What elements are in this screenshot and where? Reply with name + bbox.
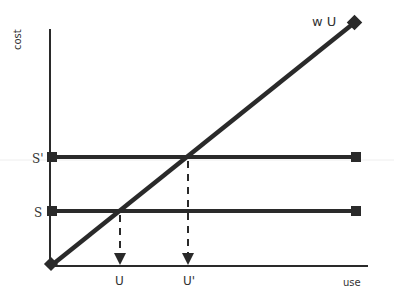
s-end-marker (351, 206, 361, 216)
wu-label: w U (312, 14, 336, 29)
y-axis-label: cost (12, 29, 23, 50)
u-label: U (115, 274, 124, 288)
wu-line (52, 23, 354, 265)
u-arrow-icon (114, 253, 126, 265)
u-prime-label: U' (183, 274, 195, 288)
x-axis-label: use (343, 277, 361, 288)
u-prime-arrow-icon (182, 253, 194, 265)
s-label: S (34, 206, 42, 220)
s-prime-end-marker (351, 152, 361, 162)
s-prime-start-marker (47, 152, 57, 162)
s-start-marker (47, 206, 57, 216)
s-prime-label: S' (32, 152, 44, 166)
cost-use-diagram: cost use w U S' S U U' (0, 0, 394, 300)
